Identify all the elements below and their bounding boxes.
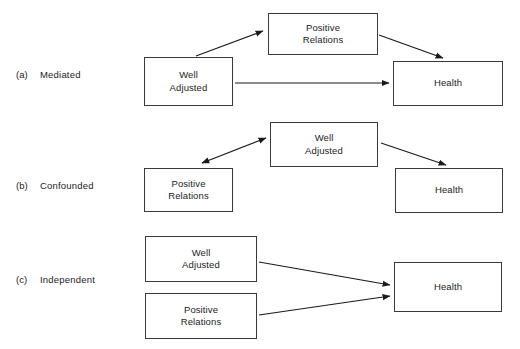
node-a-health-label: Health <box>432 77 464 90</box>
node-c-well-adjusted-label: Well Adjusted <box>180 247 222 272</box>
node-a-well-adjusted: Well Adjusted <box>144 57 233 106</box>
path-diagram-figure: (a) Mediated Well Adjusted Positive Rela… <box>0 0 520 349</box>
node-c-health: Health <box>394 262 502 312</box>
node-b-health: Health <box>395 168 503 213</box>
node-b-well-adjusted-label: Well Adjusted <box>303 132 345 157</box>
node-a-health: Health <box>393 61 503 106</box>
node-a-positive-relations: Positive Relations <box>268 13 378 55</box>
c-arrow-wa-to-health <box>259 262 390 285</box>
node-c-well-adjusted: Well Adjusted <box>145 236 257 282</box>
node-c-health-label: Health <box>432 281 464 294</box>
node-b-health-label: Health <box>433 184 465 197</box>
node-c-positive-relations: Positive Relations <box>145 293 257 339</box>
node-a-positive-relations-label: Positive Relations <box>301 22 346 47</box>
c-arrow-pr-to-health <box>259 296 390 315</box>
node-b-well-adjusted: Well Adjusted <box>270 122 378 167</box>
b-arrow-wa-to-health <box>381 143 446 165</box>
a-arrow-wa-to-pr <box>196 31 263 56</box>
panel-b-title: Confounded <box>40 180 94 191</box>
panel-c-title: Independent <box>40 274 95 285</box>
panel-c-letter: (c) <box>16 274 27 285</box>
a-arrow-pr-to-health <box>379 35 443 58</box>
node-b-positive-relations: Positive Relations <box>144 168 233 212</box>
node-a-well-adjusted-label: Well Adjusted <box>168 69 210 94</box>
panel-b-letter: (b) <box>16 180 28 191</box>
b-arrow-wa-pr-double <box>202 138 266 163</box>
node-b-positive-relations-label: Positive Relations <box>166 178 211 203</box>
panel-a-letter: (a) <box>16 69 28 80</box>
node-c-positive-relations-label: Positive Relations <box>179 304 224 329</box>
panel-a-title: Mediated <box>40 69 81 80</box>
